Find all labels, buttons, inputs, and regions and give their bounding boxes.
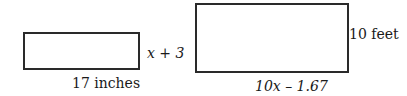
small-rectangle-height-label: x + 3 xyxy=(147,46,184,60)
small-rectangle xyxy=(23,32,140,70)
large-rectangle-width-label: 10x – 1.67 xyxy=(255,79,328,93)
large-rectangle xyxy=(195,3,349,73)
small-rectangle-width-label: 17 inches xyxy=(72,76,140,90)
large-rectangle-height-label: 10 feet xyxy=(349,27,399,41)
